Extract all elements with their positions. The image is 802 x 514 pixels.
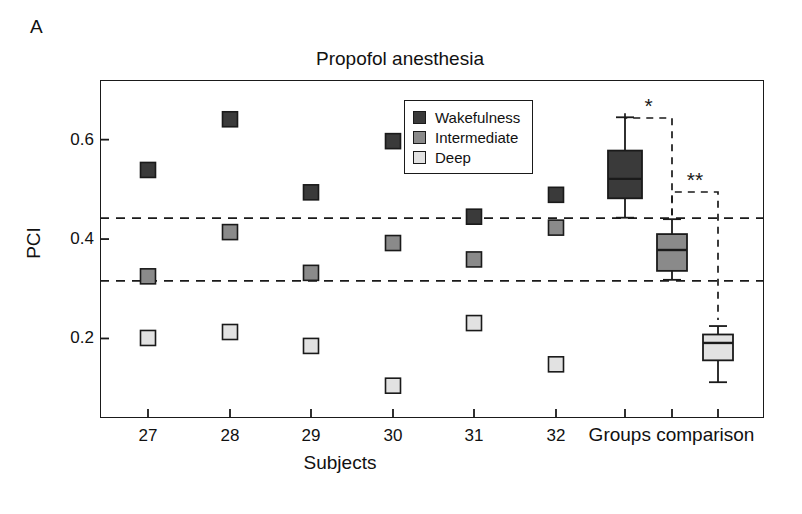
- data-point-deep-27: [141, 330, 156, 345]
- legend-item-deep[interactable]: Deep: [413, 147, 520, 167]
- data-point-wakefulness-28: [223, 112, 238, 127]
- data-point-wakefulness-27: [141, 162, 156, 177]
- x-tick-label-subject-29: 29: [302, 426, 321, 446]
- x-tick-label-subject-28: 28: [221, 426, 240, 446]
- legend-swatch-wakefulness-icon: [413, 111, 426, 124]
- x-tick-label-subject-27: 27: [139, 426, 158, 446]
- data-point-intermediate-30: [386, 236, 401, 251]
- legend-label: Intermediate: [435, 130, 518, 145]
- box-deep: [703, 334, 733, 360]
- y-tick-label-0.4: 0.4: [48, 229, 94, 249]
- data-point-intermediate-28: [223, 225, 238, 240]
- panel-letter-label: A: [30, 16, 43, 38]
- x-axis-tick-labels: 272829303132Groups comparison: [100, 424, 764, 454]
- legend-swatch-intermediate-icon: [413, 131, 426, 144]
- data-point-deep-32: [549, 357, 564, 372]
- data-point-deep-30: [386, 378, 401, 393]
- data-point-wakefulness-31: [467, 209, 482, 224]
- legend-label: Deep: [435, 150, 471, 165]
- data-point-intermediate-31: [467, 252, 482, 267]
- data-point-intermediate-27: [141, 269, 156, 284]
- legend-item-wakefulness[interactable]: Wakefulness: [413, 107, 520, 127]
- x-tick-label-subject-32: 32: [547, 426, 566, 446]
- box-wakefulness: [608, 151, 642, 199]
- x-tick-label-subject-31: 31: [465, 426, 484, 446]
- data-point-wakefulness-32: [549, 187, 564, 202]
- data-point-intermediate-32: [549, 220, 564, 235]
- significance-1-asterisk: *: [644, 94, 652, 117]
- chart-title: Propofol anesthesia: [100, 48, 700, 70]
- data-point-deep-29: [304, 338, 319, 353]
- legend-item-intermediate[interactable]: Intermediate: [413, 127, 520, 147]
- figure-panel-a: A Propofol anesthesia PCI 0.20.40.6 *** …: [0, 0, 802, 514]
- y-tick-label-0.2: 0.2: [48, 328, 94, 348]
- data-point-intermediate-29: [304, 265, 319, 280]
- legend-box: WakefulnessIntermediateDeep: [404, 100, 533, 174]
- data-point-wakefulness-29: [304, 185, 319, 200]
- data-point-deep-28: [223, 325, 238, 340]
- legend-swatch-deep-icon: [413, 151, 426, 164]
- legend-label: Wakefulness: [435, 110, 520, 125]
- y-tick-label-0.6: 0.6: [48, 130, 94, 150]
- data-point-wakefulness-30: [386, 134, 401, 149]
- significance-2-asterisk: **: [687, 168, 703, 191]
- x-tick-label-subject-30: 30: [384, 426, 403, 446]
- x-axis-label: Subjects: [100, 452, 580, 474]
- data-point-deep-31: [467, 316, 482, 331]
- box-intermediate: [657, 234, 687, 271]
- y-axis-tick-labels: 0.20.40.6: [40, 80, 94, 418]
- x-axis-group-comparison-label: Groups comparison: [589, 424, 755, 446]
